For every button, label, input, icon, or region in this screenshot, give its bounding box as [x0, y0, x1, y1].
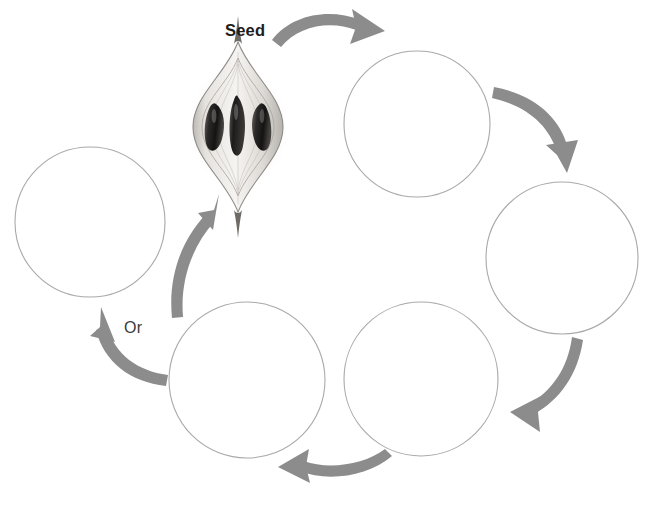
arrow-stage-2-to-stage-3	[510, 337, 583, 432]
arrow-stage-3-to-stage-4	[278, 449, 392, 483]
seed-label: Seed	[225, 22, 265, 39]
or-label: Or	[124, 320, 142, 336]
worksheet-canvas: Seed Or	[0, 0, 649, 515]
arrow-seed-to-stage-1	[272, 9, 385, 47]
arrow-stage-4-to-seed	[171, 194, 219, 318]
arrow-stage-1-to-stage-2	[492, 87, 578, 173]
cycle-arrows-layer	[0, 0, 649, 515]
